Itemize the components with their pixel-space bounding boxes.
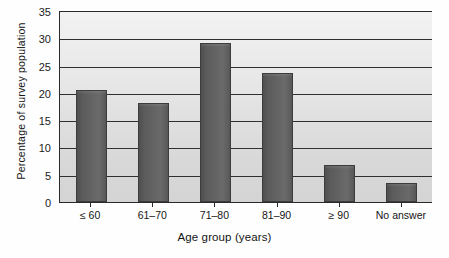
bar — [262, 73, 293, 202]
y-axis-tick-label: 15 — [3, 115, 51, 127]
bar — [200, 43, 231, 202]
x-axis-tick — [214, 203, 215, 207]
bar-highlight — [387, 184, 416, 187]
y-axis-tick-label: 25 — [3, 61, 51, 73]
x-axis-title: Age group (years) — [0, 231, 449, 243]
bar-chart-figure: Percentage of survey population 05101520… — [0, 0, 449, 258]
x-axis-tick-label: ≥ 90 — [329, 209, 349, 221]
bar — [386, 183, 417, 202]
x-axis-tick-label: No answer — [376, 209, 426, 221]
x-axis-tick — [277, 203, 278, 207]
y-axis-tick-label: 35 — [3, 6, 51, 18]
x-axis-tick — [401, 203, 402, 207]
x-axis-tick-label: ≤ 60 — [80, 209, 100, 221]
y-axis-tick-label: 30 — [3, 33, 51, 45]
bar-highlight — [325, 166, 354, 169]
plot-area — [59, 12, 432, 203]
gridline — [60, 39, 432, 40]
y-axis-tick-label: 5 — [3, 170, 51, 182]
bar-highlight — [139, 104, 168, 107]
gridline — [60, 121, 432, 122]
x-axis-tick-label: 81–90 — [262, 209, 291, 221]
bar — [138, 103, 169, 202]
gridline — [60, 176, 432, 177]
bar-highlight — [263, 74, 292, 77]
bar-highlight — [201, 44, 230, 47]
gridline — [60, 94, 432, 95]
y-axis-tick-label: 0 — [3, 197, 51, 209]
x-axis-tick — [90, 203, 91, 207]
bar — [324, 165, 355, 202]
bar-highlight — [77, 91, 106, 94]
x-axis-tick-label: 61–70 — [138, 209, 167, 221]
x-axis-tick-label: 71–80 — [200, 209, 229, 221]
x-axis-tick — [152, 203, 153, 207]
gridline — [60, 67, 432, 68]
y-axis-tick-label: 10 — [3, 142, 51, 154]
gridline — [60, 148, 432, 149]
y-axis-tick-label: 20 — [3, 88, 51, 100]
bar — [76, 90, 107, 202]
x-axis-tick — [339, 203, 340, 207]
